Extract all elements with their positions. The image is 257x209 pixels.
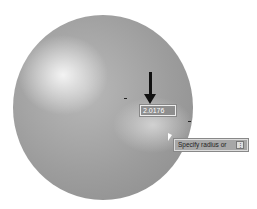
grip-marker	[188, 121, 191, 122]
annotation-arrow-shaft	[149, 72, 152, 96]
cursor-icon	[168, 133, 172, 141]
radius-dynamic-input[interactable]: 2.0176	[140, 105, 176, 116]
options-down-arrow-icon[interactable]: ⋮	[236, 141, 244, 149]
tooltip-prompt-text: Specify radius or	[178, 140, 226, 150]
drawing-viewport[interactable]: 2.0176 Specify radius or ⋮	[0, 0, 257, 209]
annotation-arrow-icon	[144, 94, 156, 104]
grip-marker	[124, 98, 127, 99]
command-prompt-tooltip: Specify radius or ⋮	[174, 139, 248, 151]
